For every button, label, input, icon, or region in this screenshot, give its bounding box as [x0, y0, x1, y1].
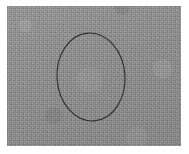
- ellipse-outline: [54, 31, 128, 124]
- annotation-overlay: [7, 6, 181, 146]
- figure-root: Grayscale textured image with hand-drawn…: [0, 0, 189, 154]
- gray-textured-plate: [7, 6, 181, 146]
